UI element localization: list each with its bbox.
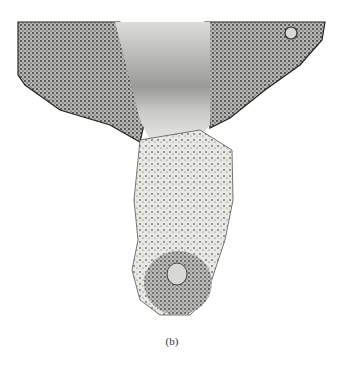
figure-caption: (b) [0,335,344,347]
small-vesicle [285,27,297,39]
vesicle [167,263,187,285]
right-lobe [205,22,325,128]
micrograph-image [0,0,344,369]
micrograph-figure: (b) [0,0,344,369]
